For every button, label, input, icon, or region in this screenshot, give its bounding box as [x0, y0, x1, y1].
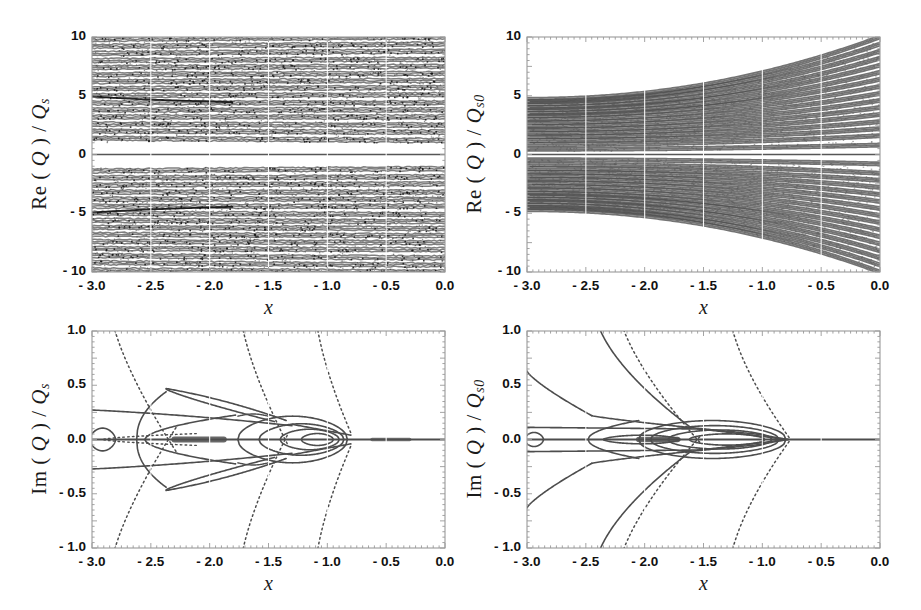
- xtick-label: 0.0: [850, 554, 910, 569]
- y-axis-label-q: Q: [462, 439, 486, 455]
- y-axis-label-sub: s0: [472, 379, 487, 392]
- y-axis-label-mid: ) /: [462, 408, 486, 439]
- xtick-label: - 3.0: [497, 554, 557, 569]
- x-axis-label: x: [664, 572, 744, 595]
- y-axis-label-fn: Im (: [462, 455, 486, 498]
- ytick-label: 1.0: [471, 322, 521, 337]
- figure-panel-grid: - 3.0- 2.5- 2.0- 1.5- 1.0- 0.50.01050- 5…: [0, 0, 921, 610]
- y-axis-label: Im ( Q ) / Qs0: [462, 339, 489, 539]
- xtick-label: - 1.0: [732, 554, 792, 569]
- plot-canvas-bottom-right: [0, 0, 921, 610]
- y-axis-label-q2: Q: [462, 393, 486, 409]
- xtick-label: - 0.5: [791, 554, 851, 569]
- xtick-label: - 2.5: [556, 554, 616, 569]
- xtick-label: - 2.0: [615, 554, 675, 569]
- ytick-label: - 1.0: [471, 539, 521, 554]
- plot-data-layer: [525, 311, 880, 567]
- xtick-label: - 1.5: [674, 554, 734, 569]
